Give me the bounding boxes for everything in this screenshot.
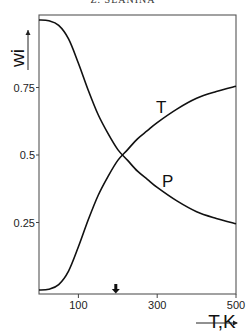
curves <box>39 20 236 290</box>
labels: TPwiT,K <box>7 30 238 332</box>
plot-frame <box>39 15 236 294</box>
svg-text:wi: wi <box>7 49 28 68</box>
y-axis-label: wi <box>7 30 31 70</box>
arrow-down-icon <box>112 284 120 294</box>
curve-label-p: P <box>162 172 173 191</box>
arrow-icon <box>26 30 31 35</box>
axis-ticks: 1003005000.250.50.75 <box>14 82 246 312</box>
plot-border <box>39 15 236 294</box>
x-tick-label: 100 <box>69 299 87 311</box>
x-tick-label: 300 <box>148 299 166 311</box>
x-tick-label: 500 <box>227 299 245 311</box>
y-tick-label: 0.75 <box>14 82 35 94</box>
x-axis-label: T,K <box>208 311 236 332</box>
y-tick-label: 0.25 <box>14 217 35 229</box>
curve-t <box>39 86 236 290</box>
curve-p <box>39 20 236 224</box>
curve-label-t: T <box>156 98 166 117</box>
y-tick-label: 0.5 <box>20 149 35 161</box>
chart: 1003005000.250.50.75 TPwiT,K <box>0 0 246 335</box>
